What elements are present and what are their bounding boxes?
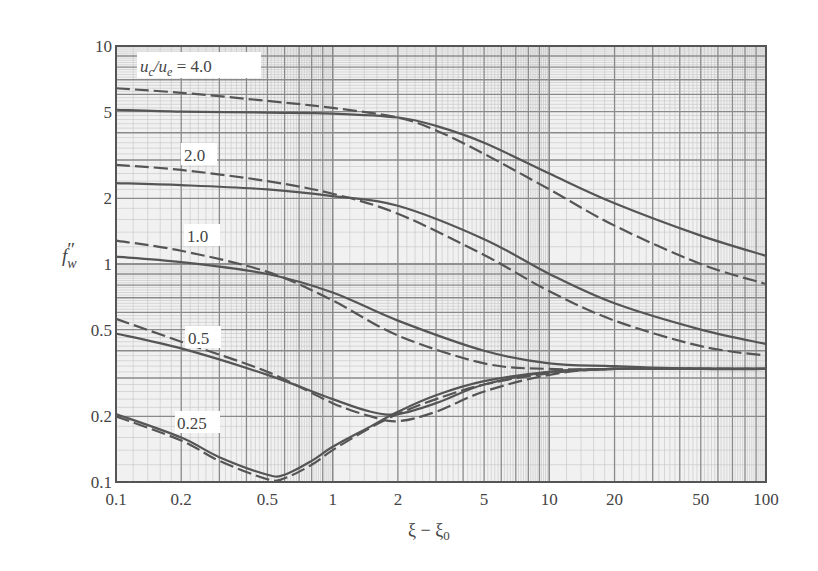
x-axis-label: ξ − ξ0	[408, 520, 450, 543]
x-tick-label: 0.1	[105, 490, 126, 509]
curve-label-025: 0.25	[175, 411, 220, 433]
y-tick-label: 10	[95, 37, 112, 56]
curve-label-4: uc/ue = 4.0	[137, 52, 261, 79]
x-axis-ticks: 0.10.20.5125102050100	[105, 490, 778, 509]
svg-text:0.25: 0.25	[177, 414, 207, 433]
svg-text:ξ − ξ0: ξ − ξ0	[408, 520, 450, 543]
x-tick-label: 10	[541, 490, 558, 509]
svg-text:1.0: 1.0	[187, 227, 208, 246]
svg-text:0.5: 0.5	[188, 329, 209, 348]
y-tick-label: 0.1	[91, 473, 112, 492]
y-axis-ticks: 0.10.20.512510	[91, 37, 112, 492]
x-tick-label: 0.5	[257, 490, 278, 509]
svg-text:f″w: f″w	[62, 239, 77, 271]
x-tick-label: 5	[480, 490, 489, 509]
x-tick-label: 2	[394, 490, 403, 509]
x-tick-label: 0.2	[171, 490, 192, 509]
curve-label-2: 2.0	[181, 143, 217, 165]
curve-label-1: 1.0	[184, 224, 220, 246]
chart: 0.10.20.5125102050100 0.10.20.512510 uc/…	[0, 0, 818, 571]
x-tick-label: 50	[692, 490, 709, 509]
y-tick-label: 1	[104, 255, 113, 274]
y-tick-label: 0.2	[91, 407, 112, 426]
x-tick-label: 100	[753, 490, 779, 509]
y-axis-label: f″w	[62, 239, 77, 271]
y-tick-label: 2	[104, 189, 113, 208]
y-tick-label: 5	[104, 103, 113, 122]
x-tick-label: 1	[328, 490, 337, 509]
x-tick-label: 20	[606, 490, 623, 509]
y-tick-label: 0.5	[91, 321, 112, 340]
svg-text:2.0: 2.0	[184, 146, 205, 165]
curve-label-05: 0.5	[185, 326, 221, 348]
